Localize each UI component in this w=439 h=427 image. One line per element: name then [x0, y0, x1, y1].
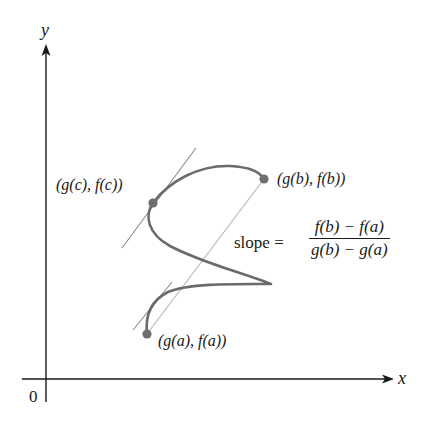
slope-prefix: slope = — [234, 234, 284, 251]
x-axis-label: x — [398, 369, 406, 387]
cauchy-mean-value-diagram: y x 0 (g(c), f(c)) (g(b), f(b)) (g(a), f… — [0, 0, 439, 427]
slope-fraction: f(b) − f(a) g(b) − g(a) — [309, 217, 390, 259]
slope-denominator: g(b) − g(a) — [309, 240, 390, 260]
point-a — [142, 329, 151, 338]
point-a-label: (g(a), f(a)) — [158, 333, 226, 349]
point-c-label: (g(c), f(c)) — [56, 177, 123, 193]
origin-label: 0 — [29, 388, 38, 405]
x-axis — [22, 375, 394, 384]
tangent-line-c — [122, 148, 196, 248]
point-b-label: (g(b), f(b)) — [277, 171, 345, 187]
y-axis — [42, 44, 51, 402]
secant-line — [147, 179, 264, 334]
y-axis-label: y — [41, 21, 49, 39]
fraction-bar — [309, 238, 390, 239]
slope-numerator: f(b) − f(a) — [313, 217, 386, 237]
point-b — [259, 174, 268, 183]
point-c — [148, 198, 157, 207]
